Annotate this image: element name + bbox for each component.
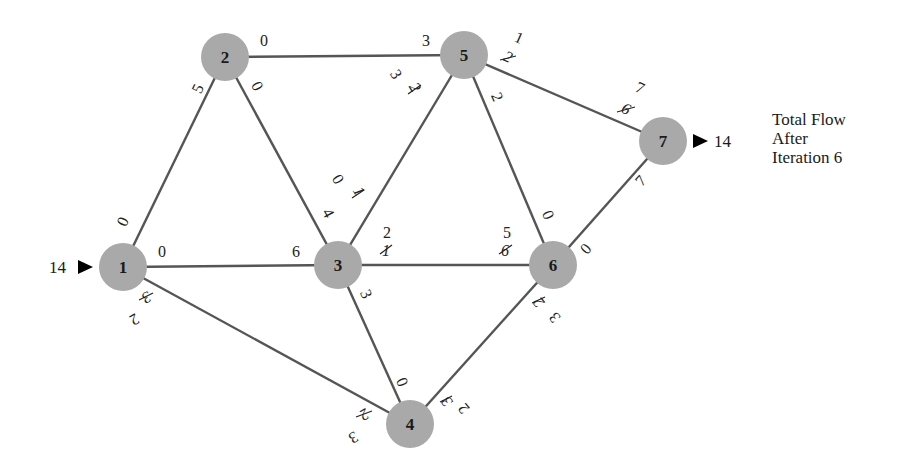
caption-line-3: Iteration 6	[772, 148, 846, 167]
edge-3-5-cap-from-old: 1	[350, 183, 369, 199]
caption-line-1: Total Flow	[772, 110, 846, 129]
edge-5-7-cap-from: 1	[512, 28, 526, 47]
node-6: 6	[529, 241, 577, 289]
edge-3-5-cap-from: 0	[329, 171, 348, 187]
inflow-arrow-icon	[78, 260, 93, 274]
node-7: 7	[639, 117, 687, 165]
edge-3-6-cap-to: 5	[503, 224, 511, 241]
edge-5-7-cap-to: 7	[633, 78, 647, 97]
edge-2-3-cap-from: 0	[248, 78, 267, 93]
edge-6-7	[553, 141, 663, 265]
edge-2-5-cap-from: 0	[260, 32, 268, 49]
node-label: 6	[549, 256, 558, 275]
outflow-value: 14	[714, 132, 732, 151]
edge-3-5-cap-to: 3	[387, 66, 406, 82]
edge-6-7-cap-to: 7	[632, 172, 650, 189]
edge-4-6	[410, 265, 553, 424]
edge-1-4-cap-to: 3	[346, 428, 361, 447]
total-flow-caption: Total Flow After Iteration 6	[772, 110, 846, 167]
edge-3-4-cap-to: 0	[393, 375, 412, 389]
source-inflow: 14	[49, 258, 93, 277]
edge-5-6-cap-to: 0	[539, 208, 558, 222]
caption-line-2: After	[772, 129, 846, 148]
edge-3-5-cap-to-old: 2	[406, 79, 425, 95]
edge-1-2-cap-to: 5	[188, 81, 207, 96]
edge-1-3-cap-from: 0	[158, 243, 166, 260]
edge-1-2-cap-from: 0	[113, 214, 132, 229]
edge-6-7-cap-from: 0	[577, 240, 595, 257]
edge-2-3	[225, 57, 338, 265]
node-label: 2	[221, 48, 230, 67]
inflow-value: 14	[49, 258, 67, 277]
edge-4-6-cap-to: 3	[545, 309, 563, 326]
edge-2-5	[225, 55, 464, 57]
edge-3-4-cap-from: 3	[357, 287, 376, 301]
edge-1-4-cap-from: 2	[127, 310, 142, 329]
node-3: 3	[314, 241, 362, 289]
edge-3-6-cap-from: 2	[383, 224, 391, 241]
edge-2-5-cap-to: 3	[422, 32, 430, 49]
node-label: 3	[334, 256, 343, 275]
edge-1-3	[123, 265, 338, 267]
node-4: 4	[386, 400, 434, 448]
edge-1-3-cap-to: 6	[292, 243, 300, 260]
edge-1-2	[123, 57, 225, 267]
node-1: 1	[99, 243, 147, 291]
network-flow-diagram: 1 2 3 4 5 6 7 14 14	[0, 0, 915, 470]
edge-1-4-cap-from-old: 3	[139, 288, 155, 307]
edge-1-4-cap-to-old: 2	[357, 405, 372, 424]
sink-outflow: 14	[693, 132, 732, 151]
edge-2-3-cap-to: 4	[319, 205, 338, 220]
edge-3-5	[338, 55, 464, 265]
edge-3-6-cap-from-old: 1	[382, 242, 390, 259]
node-label: 4	[406, 415, 415, 434]
edge-labels: 0 5 0 3 0 4 0 6 0 1 3 2 1 2 7 6 2 0 2 1 …	[113, 28, 649, 447]
edges	[123, 55, 663, 424]
node-2: 2	[201, 33, 249, 81]
outflow-arrow-icon	[693, 134, 708, 148]
node-5: 5	[440, 31, 488, 79]
node-label: 5	[460, 46, 469, 65]
edge-5-6-cap-from: 2	[488, 90, 507, 104]
node-label: 7	[659, 132, 668, 151]
edge-4-6-cap-from: 2	[454, 400, 472, 417]
node-label: 1	[119, 258, 128, 277]
